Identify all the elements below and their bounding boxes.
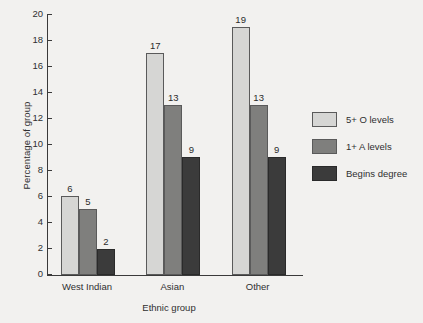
legend-item: 5+ O levels [312, 108, 420, 130]
bar-value-label: 6 [53, 183, 87, 194]
y-axis-tick-label: 6 [21, 190, 43, 201]
x-axis-group-label: Asian [127, 281, 217, 292]
y-axis-tick-label: 10 [21, 138, 43, 149]
y-axis-tick-label: 16 [21, 60, 43, 71]
legend-swatch [312, 112, 337, 127]
bar-chart: Percentage of group 02468101214161820 65… [0, 0, 423, 323]
bar [164, 105, 182, 274]
bar [97, 249, 115, 275]
bars-layer: 6521713919139 [48, 14, 303, 275]
legend-swatch [312, 166, 337, 181]
bar-value-label: 9 [260, 144, 294, 155]
y-axis-tick-label: 8 [21, 164, 43, 175]
legend-label: 1+ A levels [346, 141, 392, 152]
bar-value-label: 2 [89, 236, 123, 247]
x-axis-group-label: Other [213, 281, 303, 292]
bar [182, 157, 200, 274]
legend-swatch [312, 139, 337, 154]
y-axis-tick-label: 14 [21, 86, 43, 97]
bar-value-label: 19 [224, 14, 258, 25]
bar [61, 196, 79, 274]
y-axis-tick-label: 12 [21, 112, 43, 123]
legend-label: Begins degree [346, 168, 407, 179]
x-axis-group-label: West Indian [42, 281, 132, 292]
y-axis-tick-label: 2 [21, 242, 43, 253]
bar [250, 105, 268, 274]
bar-value-label: 13 [242, 92, 276, 103]
y-axis-tick-label: 18 [21, 34, 43, 45]
y-axis-tick-label: 20 [21, 8, 43, 19]
bar-value-label: 13 [156, 92, 190, 103]
legend-item: Begins degree [312, 162, 420, 184]
x-axis-line [47, 275, 303, 276]
bar-value-label: 9 [174, 144, 208, 155]
bar [146, 53, 164, 275]
y-axis-tick-label: 4 [21, 216, 43, 227]
bar [232, 27, 250, 275]
legend: 5+ O levels1+ A levelsBegins degree [312, 108, 420, 189]
x-axis-title: Ethnic group [44, 302, 294, 313]
plot-area: 02468101214161820 6521713919139 [47, 14, 303, 276]
legend-label: 5+ O levels [346, 114, 394, 125]
bar-value-label: 5 [71, 196, 105, 207]
bar [268, 157, 286, 274]
y-axis-tick-label: 0 [21, 268, 43, 279]
bar-value-label: 17 [138, 40, 172, 51]
legend-item: 1+ A levels [312, 135, 420, 157]
